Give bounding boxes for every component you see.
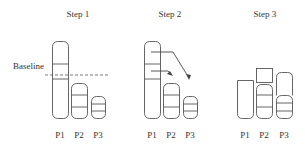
step1-p1-label: P1 <box>55 130 65 140</box>
step2-p3-column <box>184 97 198 119</box>
step3-p2-moved-block <box>257 69 273 83</box>
step2-p2-column <box>164 84 180 119</box>
step1-p3-label: P3 <box>93 130 103 140</box>
step3-p3-moved-block <box>277 73 293 96</box>
step-2-title: Step 2 <box>159 9 182 19</box>
step2-p1-column <box>145 42 161 119</box>
step-1-title: Step 1 <box>67 9 90 19</box>
step1-p2-column <box>72 84 88 119</box>
step3-p2-label: P2 <box>259 130 269 140</box>
step3-p3-column <box>277 96 293 119</box>
step-3-group <box>238 69 293 119</box>
arrowhead-icon <box>167 71 173 76</box>
step-1-group <box>53 42 106 119</box>
step2-p2-label: P2 <box>166 130 176 140</box>
step-2-group <box>145 42 198 119</box>
step-3-title: Step 3 <box>254 9 277 19</box>
step3-p1-column <box>238 81 254 119</box>
baseline-label: Baseline <box>13 61 44 71</box>
load-balancing-diagram: Step 1 Step 2 Step 3 Baseline <box>0 0 305 155</box>
step2-p1-label: P1 <box>147 130 157 140</box>
step3-p2-column <box>257 85 273 119</box>
step3-p3-label: P3 <box>279 130 289 140</box>
step1-p2-label: P2 <box>74 130 84 140</box>
step2-p3-label: P3 <box>185 130 195 140</box>
step1-p1-column <box>53 42 69 119</box>
step3-p1-label: P1 <box>240 130 250 140</box>
step1-p3-column <box>92 97 106 119</box>
arrowhead-icon <box>186 74 191 80</box>
